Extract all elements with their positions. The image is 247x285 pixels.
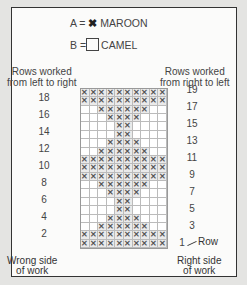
grid-cell xyxy=(81,122,90,130)
grid-cell xyxy=(90,223,99,231)
grid-cell: ✕ xyxy=(141,156,150,164)
grid-cell xyxy=(141,114,150,122)
row-number: 8 xyxy=(34,177,54,188)
grid-cell: ✕ xyxy=(98,181,107,189)
row-number: 16 xyxy=(34,109,54,120)
grid-cell: ✕ xyxy=(124,114,133,122)
grid-cell: ✕ xyxy=(115,231,124,239)
grid-cell xyxy=(90,114,99,122)
legend-a-label: MAROON xyxy=(100,17,147,29)
grid-cell: ✕ xyxy=(115,131,124,139)
grid-cell: ✕ xyxy=(115,156,124,164)
grid-cell: ✕ xyxy=(90,240,99,248)
grid-cell: ✕ xyxy=(133,164,142,172)
grid-cell xyxy=(90,106,99,114)
grid-cell: ✕ xyxy=(115,198,124,206)
footer-right-line: of work xyxy=(177,266,221,276)
grid-cell: ✕ xyxy=(124,189,133,197)
grid-cell xyxy=(98,215,107,223)
grid-cell xyxy=(150,106,159,114)
grid-cell: ✕ xyxy=(115,240,124,248)
grid-cell xyxy=(81,148,90,156)
grid-cell xyxy=(141,131,150,139)
legend-b: B =CAMEL xyxy=(70,38,137,51)
grid-cell xyxy=(81,181,90,189)
footer-right: Right side of work xyxy=(177,256,221,276)
grid-cell: ✕ xyxy=(133,148,142,156)
grid-cell xyxy=(133,131,142,139)
grid-cell: ✕ xyxy=(158,97,167,105)
grid-cell xyxy=(141,139,150,147)
grid-cell: ✕ xyxy=(107,148,116,156)
grid-cell xyxy=(90,198,99,206)
grid-cell xyxy=(81,114,90,122)
grid-cell: ✕ xyxy=(150,240,159,248)
grid-cell xyxy=(98,206,107,214)
grid-cell: ✕ xyxy=(141,164,150,172)
grid-cell: ✕ xyxy=(107,156,116,164)
grid-cell xyxy=(81,215,90,223)
grid-cell: ✕ xyxy=(98,164,107,172)
grid-cell: ✕ xyxy=(133,223,142,231)
grid-cell: ✕ xyxy=(107,223,116,231)
row-number: 10 xyxy=(34,160,54,171)
grid-cell xyxy=(150,223,159,231)
grid-cell: ✕ xyxy=(107,181,116,189)
grid-cell: ✕ xyxy=(124,223,133,231)
grid-cell: ✕ xyxy=(115,139,124,147)
grid-cell xyxy=(150,215,159,223)
grid-cell xyxy=(98,114,107,122)
grid-cell: ✕ xyxy=(107,215,116,223)
grid-cell: ✕ xyxy=(107,231,116,239)
grid-cell: ✕ xyxy=(107,164,116,172)
grid-cell xyxy=(150,148,159,156)
grid-cell xyxy=(90,122,99,130)
footer-left: Wrong side of work xyxy=(7,256,57,276)
grid-cell xyxy=(81,189,90,197)
grid-cell: ✕ xyxy=(124,240,133,248)
grid-cell xyxy=(98,139,107,147)
grid-cell: ✕ xyxy=(150,89,159,97)
grid-cell: ✕ xyxy=(115,106,124,114)
row-number: 5 xyxy=(182,203,202,214)
grid-cell: ✕ xyxy=(115,148,124,156)
header-left-line: from left to right xyxy=(7,77,76,88)
grid-cell: ✕ xyxy=(81,231,90,239)
grid-cell: ✕ xyxy=(98,240,107,248)
grid-cell xyxy=(150,114,159,122)
grid-cell xyxy=(90,181,99,189)
grid-cell xyxy=(107,206,116,214)
grid-cell: ✕ xyxy=(133,240,142,248)
grid-cell: ✕ xyxy=(124,106,133,114)
grid-cell xyxy=(90,139,99,147)
grid-cell: ✕ xyxy=(124,131,133,139)
grid-cell: ✕ xyxy=(133,106,142,114)
grid-cell: ✕ xyxy=(150,231,159,239)
row-number: 3 xyxy=(182,220,202,231)
grid-cell xyxy=(150,206,159,214)
grid-cell xyxy=(133,122,142,130)
row-number: 4 xyxy=(34,211,54,222)
grid-cell: ✕ xyxy=(115,173,124,181)
grid-cell xyxy=(133,206,142,214)
grid-cell: ✕ xyxy=(81,97,90,105)
grid-cell: ✕ xyxy=(90,97,99,105)
grid-cell: ✕ xyxy=(115,97,124,105)
grid-cell xyxy=(141,189,150,197)
grid-cell xyxy=(90,131,99,139)
grid-cell: ✕ xyxy=(124,198,133,206)
grid-cell: ✕ xyxy=(107,240,116,248)
row-number: 19 xyxy=(182,84,202,95)
grid-cell: ✕ xyxy=(158,240,167,248)
grid-cell: ✕ xyxy=(133,231,142,239)
grid-cell: ✕ xyxy=(107,173,116,181)
grid-cell: ✕ xyxy=(98,106,107,114)
grid-cell: ✕ xyxy=(124,97,133,105)
grid-cell: ✕ xyxy=(133,89,142,97)
grid-cell: ✕ xyxy=(141,240,150,248)
grid-cell: ✕ xyxy=(81,164,90,172)
grid-cell xyxy=(81,139,90,147)
grid-cell xyxy=(90,148,99,156)
grid-cell: ✕ xyxy=(133,156,142,164)
grid-cell: ✕ xyxy=(90,156,99,164)
